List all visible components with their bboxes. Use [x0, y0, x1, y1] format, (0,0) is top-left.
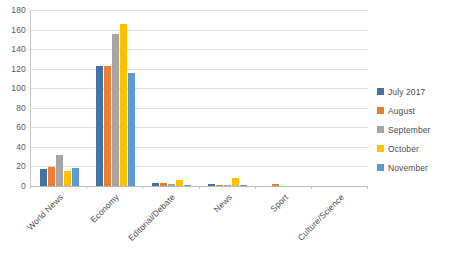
legend-swatch-icon	[377, 164, 384, 171]
x-axis-tick-mark	[199, 186, 200, 189]
legend-item[interactable]: August	[377, 101, 449, 120]
bar-group	[31, 10, 87, 186]
x-axis-tick-mark	[86, 186, 87, 189]
bar	[40, 169, 47, 186]
legend-swatch-icon	[377, 126, 384, 133]
bar	[104, 66, 111, 186]
legend-swatch-icon	[377, 88, 384, 95]
legend-item-label: October	[388, 144, 419, 154]
bar-group	[200, 10, 256, 186]
legend-item[interactable]: July 2017	[377, 82, 449, 101]
chart-legend: July 2017AugustSeptemberOctoberNovember	[377, 82, 449, 177]
x-axis-tick-label: News	[211, 192, 233, 214]
plot-area	[30, 10, 368, 186]
y-axis-tick-label: 80	[16, 103, 26, 113]
bar	[232, 178, 239, 186]
y-axis-tick-label: 140	[11, 44, 26, 54]
legend-item-label: November	[388, 163, 428, 173]
bar	[48, 167, 55, 186]
legend-item[interactable]: November	[377, 158, 449, 177]
legend-item-label: August	[388, 106, 415, 116]
x-axis-tick-label: Culture/Science	[295, 192, 346, 243]
x-axis-tick-mark	[142, 186, 143, 189]
bar-group	[312, 10, 368, 186]
bar	[64, 171, 71, 186]
x-axis-tick-label: World News	[25, 192, 65, 232]
y-axis-tick-label: 180	[11, 5, 26, 15]
legend-swatch-icon	[377, 107, 384, 114]
x-axis-tick-mark	[30, 186, 31, 189]
y-axis-tick-label: 120	[11, 64, 26, 74]
x-axis-tick-mark	[367, 186, 368, 189]
bar	[72, 168, 79, 186]
y-axis: 020406080100120140160180	[0, 10, 26, 186]
bar	[120, 24, 127, 186]
x-axis-tick-label: Editorial/Debate	[126, 192, 177, 243]
y-axis-tick-label: 100	[11, 83, 26, 93]
x-axis-tick-mark	[255, 186, 256, 189]
y-axis-tick-label: 60	[16, 122, 26, 132]
x-axis: World NewsEconomyEditorial/DebateNewsSpo…	[30, 186, 368, 259]
bar-chart: 020406080100120140160180 World NewsEcono…	[0, 0, 449, 259]
x-axis-tick-label: Economy	[89, 192, 122, 225]
bar	[96, 66, 103, 186]
x-axis-tick-label: Sport	[268, 192, 290, 214]
bar-group	[256, 10, 312, 186]
bar	[128, 73, 135, 186]
x-axis-tick-mark	[311, 186, 312, 189]
y-axis-tick-label: 20	[16, 161, 26, 171]
y-axis-tick-label: 0	[21, 181, 26, 191]
y-axis-tick-label: 40	[16, 142, 26, 152]
bar-group	[143, 10, 199, 186]
bar	[112, 34, 119, 186]
y-axis-tick-label: 160	[11, 25, 26, 35]
legend-item[interactable]: September	[377, 120, 449, 139]
legend-item[interactable]: October	[377, 139, 449, 158]
legend-item-label: July 2017	[388, 87, 425, 97]
legend-item-label: September	[388, 125, 430, 135]
bar-group	[87, 10, 143, 186]
bar	[56, 155, 63, 186]
legend-swatch-icon	[377, 145, 384, 152]
